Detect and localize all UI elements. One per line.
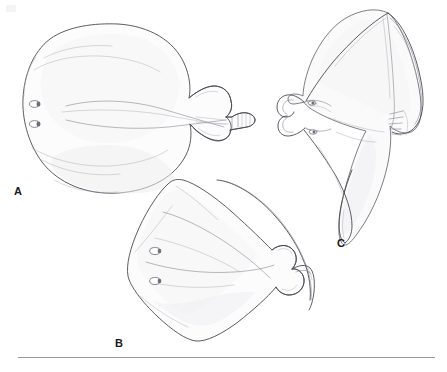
panel-label-b: B [115, 338, 123, 349]
panel-label-a: A [14, 186, 22, 197]
specimen-a-illustration [23, 24, 255, 194]
illustration-canvas [0, 0, 447, 372]
specimen-c-illustration [277, 10, 423, 245]
specimen-c-eye-lower [309, 130, 317, 134]
specimen-c-eye [308, 101, 316, 105]
figure-plate: A B C [0, 0, 447, 372]
specimen-b-illustration [127, 179, 314, 341]
panel-label-c: C [337, 238, 345, 249]
caption-separator-rule [18, 357, 435, 358]
